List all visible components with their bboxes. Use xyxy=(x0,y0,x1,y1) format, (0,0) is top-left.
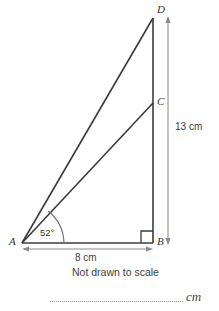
diagram-canvas xyxy=(0,0,219,311)
vertex-label-d: D xyxy=(157,4,165,15)
dimension-arrowhead-base-left xyxy=(22,246,29,251)
geometry-figure: A B C D 52° 8 cm 13 cm Not drawn to scal… xyxy=(0,0,219,311)
right-angle-marker xyxy=(141,231,153,243)
answer-unit-label: cm xyxy=(186,290,201,303)
dimension-arrowhead-height-bottom xyxy=(165,238,170,245)
segment-ac xyxy=(22,103,153,243)
dimension-arrowhead-base-right xyxy=(146,246,153,251)
angle-label-52: 52° xyxy=(40,228,54,238)
answer-row: cm xyxy=(50,290,210,308)
dimension-arrowhead-height-top xyxy=(165,16,170,23)
not-to-scale-note: Not drawn to scale xyxy=(72,267,159,278)
vertex-label-b: B xyxy=(157,236,164,247)
vertex-label-c: C xyxy=(157,96,164,107)
vertex-label-a: A xyxy=(9,236,16,247)
answer-dotted-line[interactable] xyxy=(50,299,183,302)
dimension-label-height: 13 cm xyxy=(175,122,202,132)
dimension-label-base: 8 cm xyxy=(75,253,97,263)
segment-ad xyxy=(22,18,153,243)
